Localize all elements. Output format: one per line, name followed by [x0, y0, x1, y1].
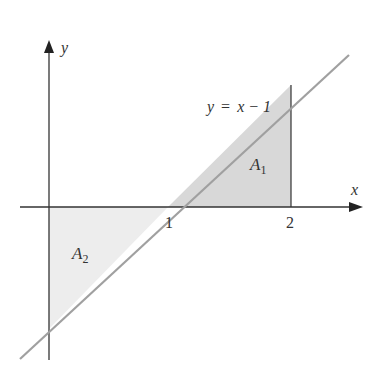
equation-eq: =	[221, 98, 230, 115]
x-axis-arrow-icon	[349, 202, 363, 212]
equation-lhs: y	[205, 98, 215, 116]
tick-label-2: 2	[286, 214, 294, 231]
equation-rhs: x − 1	[236, 98, 271, 115]
region-a2	[49, 207, 168, 329]
equation-label: y = x − 1	[205, 98, 271, 116]
region-a1-base: A	[249, 155, 261, 174]
area-between-curves-diagram: y x 1 2 y = x − 1 A1 A2	[0, 0, 371, 376]
region-a2-subscript: 2	[82, 252, 88, 266]
y-axis-label: y	[59, 39, 69, 57]
x-axis-label: x	[350, 181, 358, 198]
tick-label-1: 1	[165, 214, 173, 231]
region-a1-subscript: 1	[260, 163, 266, 177]
region-a2-base: A	[71, 244, 83, 263]
y-axis-arrow-icon	[44, 40, 54, 53]
